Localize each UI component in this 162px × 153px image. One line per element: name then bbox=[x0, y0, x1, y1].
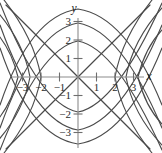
plot-canvas: −3 −2 −1 1 2 3 3 2 1 −1 −2 −3 x y bbox=[0, 0, 162, 153]
y-axis-label: y bbox=[70, 2, 77, 15]
y-tick-label-1: 1 bbox=[66, 52, 72, 64]
hyperbola-contour-figure: −3 −2 −1 1 2 3 3 2 1 −1 −2 −3 x y bbox=[0, 0, 162, 153]
y-tick-label-2: 2 bbox=[66, 34, 72, 46]
x-tick-label-neg3: −3 bbox=[17, 81, 29, 93]
x-axis-label: x bbox=[145, 70, 152, 82]
x-tick-label-1: 1 bbox=[94, 81, 100, 93]
y-tick-label-neg1: −1 bbox=[59, 89, 71, 101]
x-tick-label-3: 3 bbox=[131, 81, 137, 93]
y-tick-label-neg3: −3 bbox=[59, 126, 71, 138]
y-tick-label-3: 3 bbox=[66, 15, 72, 27]
x-tick-label-neg2: −2 bbox=[35, 81, 47, 93]
y-tick-label-neg2: −2 bbox=[59, 108, 71, 120]
x-tick-label-2: 2 bbox=[112, 81, 118, 93]
